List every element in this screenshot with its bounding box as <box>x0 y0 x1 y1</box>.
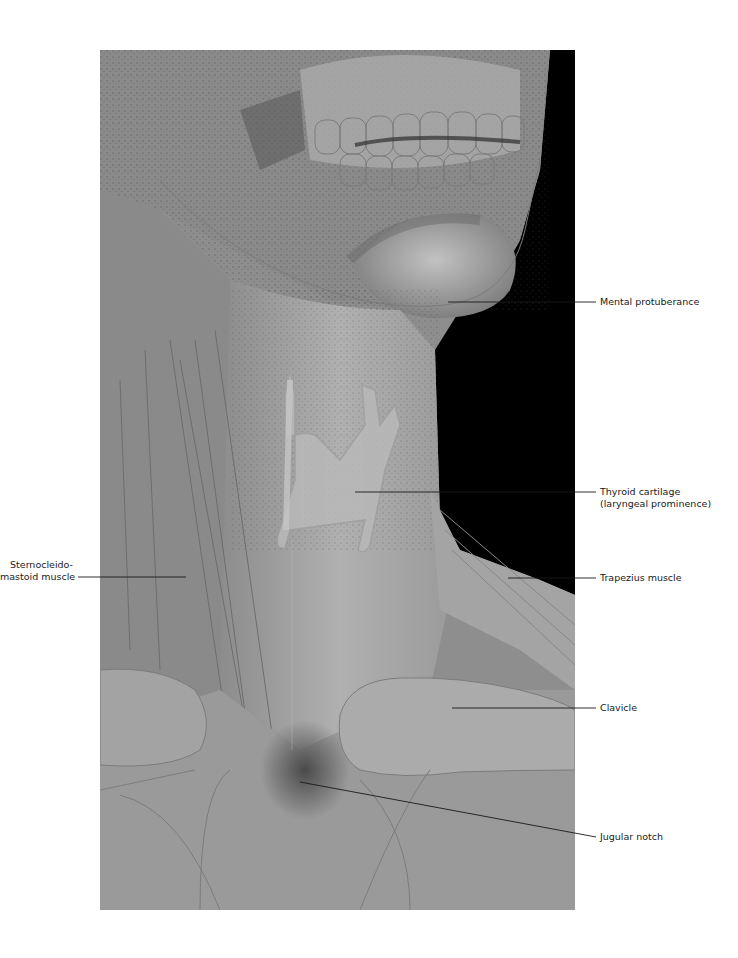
label-jugular-notch: Jugular notch <box>600 831 663 843</box>
label-trapezius: Trapezius muscle <box>600 572 682 584</box>
label-sternocleidomastoid: Sternocleido- mastoid muscle <box>0 559 73 583</box>
anatomy-illustration <box>100 50 575 910</box>
label-thyroid-cartilage: Thyroid cartilage (laryngeal prominence) <box>600 486 711 510</box>
label-clavicle: Clavicle <box>600 702 637 714</box>
label-mental-protuberance: Mental protuberance <box>600 296 699 308</box>
